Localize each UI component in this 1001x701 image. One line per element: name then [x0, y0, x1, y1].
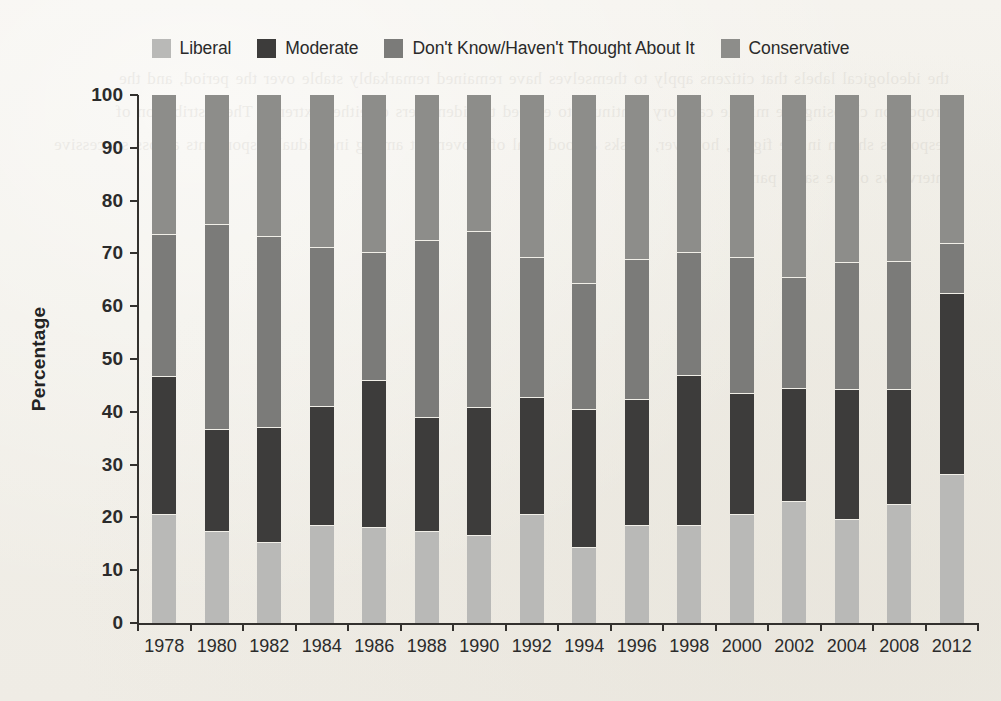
bar-stack — [730, 95, 754, 623]
y-axis-tick-label: 30 — [102, 454, 130, 476]
bar-segment — [887, 390, 911, 505]
x-axis-tick-label: 1984 — [302, 636, 342, 657]
x-axis-tick-label: 2002 — [774, 636, 814, 657]
x-axis-tick-label: 2000 — [722, 636, 762, 657]
x-axis-tick-label: 1980 — [197, 636, 237, 657]
bar-segment — [257, 95, 281, 237]
y-axis-tick-mark — [130, 147, 138, 149]
bar-segment — [677, 253, 701, 376]
x-axis-tick-mark — [295, 623, 297, 631]
y-axis-tick: 50 — [102, 348, 138, 370]
bar-stack — [310, 95, 334, 623]
legend-swatch-icon — [384, 39, 403, 58]
x-axis-tick-label: 1998 — [669, 636, 709, 657]
bar-segment — [362, 253, 386, 380]
x-axis-tick-mark — [715, 623, 717, 631]
y-axis-tick-mark — [130, 358, 138, 360]
bar-segment — [572, 548, 596, 624]
bar-segment — [887, 262, 911, 390]
legend-swatch-icon — [721, 39, 740, 58]
bar-segment — [940, 244, 964, 294]
legend-item: Conservative — [721, 38, 850, 59]
bar-segment — [152, 95, 176, 235]
x-axis-tick-label: 1988 — [407, 636, 447, 657]
bar-segment — [782, 278, 806, 389]
y-axis-tick-mark — [130, 569, 138, 571]
y-axis-tick-label: 0 — [112, 612, 130, 634]
bar-segment — [625, 95, 649, 260]
y-axis-tick-mark — [130, 305, 138, 307]
y-axis-tick-label: 100 — [91, 84, 130, 106]
y-axis-title: Percentage — [28, 95, 50, 623]
bar-stack — [887, 95, 911, 623]
bar-segment — [257, 428, 281, 543]
x-axis-tick-mark — [662, 623, 664, 631]
x-axis-tick-mark — [610, 623, 612, 631]
y-axis-tick: 20 — [102, 506, 138, 528]
bar-segment — [730, 95, 754, 258]
y-axis-tick: 60 — [102, 295, 138, 317]
x-axis-tick-mark — [925, 623, 927, 631]
bar-segment — [415, 95, 439, 241]
x-axis-tick-label: 1978 — [144, 636, 184, 657]
bar-segment — [940, 95, 964, 244]
y-axis-tick: 40 — [102, 401, 138, 423]
x-axis-tick-label: 2012 — [932, 636, 972, 657]
y-axis-tick-mark — [130, 464, 138, 466]
bar-stack — [257, 95, 281, 623]
bar-segment — [362, 381, 386, 528]
y-axis-tick: 70 — [102, 242, 138, 264]
x-axis-tick-mark — [767, 623, 769, 631]
bar-segment — [782, 389, 806, 501]
x-axis-tick-label: 1982 — [249, 636, 289, 657]
bar-stack — [782, 95, 806, 623]
y-axis-tick-label: 60 — [102, 295, 130, 317]
bar-segment — [677, 95, 701, 253]
y-axis-tick-mark — [130, 411, 138, 413]
bar-segment — [730, 258, 754, 395]
bar-stack — [572, 95, 596, 623]
x-axis-tick-mark — [452, 623, 454, 631]
bar-segment — [625, 260, 649, 400]
y-axis-tick-label: 90 — [102, 137, 130, 159]
bar-segment — [310, 407, 334, 527]
bar-segment — [572, 95, 596, 284]
legend-item: Moderate — [257, 38, 358, 59]
bar-stack — [152, 95, 176, 623]
bar-stack — [467, 95, 491, 623]
y-axis-tick-label: 20 — [102, 506, 130, 528]
bar-segment — [310, 526, 334, 623]
bar-segment — [415, 532, 439, 623]
bar-stack — [362, 95, 386, 623]
y-axis-tick-label: 70 — [102, 242, 130, 264]
bar-segment — [152, 377, 176, 515]
bar-segment — [520, 258, 544, 398]
x-axis-tick-label: 1996 — [617, 636, 657, 657]
bar-segment — [257, 543, 281, 623]
y-axis-tick: 90 — [102, 137, 138, 159]
x-axis-tick-mark — [400, 623, 402, 631]
bar-segment — [782, 95, 806, 278]
bar-segment — [205, 225, 229, 429]
bar-segment — [572, 284, 596, 410]
x-axis-tick-mark — [347, 623, 349, 631]
bar-segment — [625, 526, 649, 623]
x-axis-tick-mark — [820, 623, 822, 631]
bar-stack — [625, 95, 649, 623]
bar-segment — [415, 241, 439, 417]
x-axis-tick-mark — [137, 623, 139, 631]
legend-item-label: Don't Know/Haven't Thought About It — [412, 38, 694, 59]
legend-item-label: Moderate — [285, 38, 358, 59]
bar-segment — [467, 95, 491, 232]
y-axis-tick: 10 — [102, 559, 138, 581]
legend-item: Don't Know/Haven't Thought About It — [384, 38, 694, 59]
x-axis-tick-mark — [505, 623, 507, 631]
bar-stack — [835, 95, 859, 623]
x-axis-tick-mark — [872, 623, 874, 631]
x-axis-tick-label: 1986 — [354, 636, 394, 657]
bar-segment — [940, 475, 964, 623]
bar-stack — [205, 95, 229, 623]
bar-segment — [625, 400, 649, 526]
plot-area: 0102030405060708090100 19781980198219841… — [138, 95, 978, 623]
x-axis-tick-label: 1994 — [564, 636, 604, 657]
